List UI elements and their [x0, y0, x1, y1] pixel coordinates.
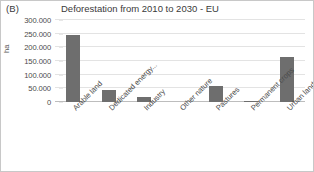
panel-label: (B)	[6, 3, 19, 14]
y-axis-tick-label: 0	[47, 98, 51, 107]
bar	[66, 35, 80, 102]
chart-title: Deforestation from 2010 to 2030 - EU	[61, 3, 301, 14]
y-axis-tick-label: 300.000	[24, 16, 51, 25]
x-axis-category-label: Arable land	[71, 106, 77, 112]
x-axis-category-labels: Arable landDedicated energy...IndustryOt…	[55, 102, 305, 172]
y-axis-tick-labels: 050.000100.000150.000200.000250.000300.0…	[9, 20, 53, 102]
x-axis-category-label: Dedicated energy...	[107, 106, 113, 112]
y-axis-tick-label: 250.000	[24, 29, 51, 38]
y-axis-tick-label: 50.000	[28, 84, 51, 93]
x-axis-category-label: Permanent crops	[249, 106, 255, 112]
x-axis-category-label: Industry	[142, 106, 148, 112]
x-axis-category-label: Other nature	[178, 106, 184, 112]
y-axis-tick-label: 200.000	[24, 43, 51, 52]
y-axis-tick-label: 100.000	[24, 70, 51, 79]
y-axis-tick-label: 150.000	[24, 57, 51, 66]
x-axis-category-label: Urban land	[285, 106, 291, 112]
chart-screenshot: (B) Deforestation from 2010 to 2030 - EU…	[0, 0, 314, 172]
x-axis-category-label: Pastures	[214, 106, 220, 112]
